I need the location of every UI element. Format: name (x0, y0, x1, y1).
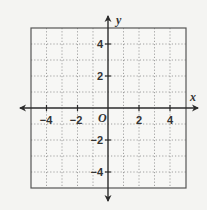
x-tick-label-2: 2 (136, 114, 142, 126)
x-axis-label: x (189, 90, 196, 104)
x-tick-label-neg4: −4 (40, 114, 53, 126)
x-tick-label-neg2: −2 (70, 114, 83, 126)
y-tick-label-4: 4 (97, 38, 104, 50)
coordinate-plane: y x O −4 −2 2 4 4 2 −2 −4 (0, 0, 207, 210)
y-tick-label-neg4: −4 (90, 166, 103, 178)
y-tick-label-2: 2 (97, 70, 103, 82)
y-tick-label-neg2: −2 (90, 134, 103, 146)
y-axis-label: y (114, 13, 122, 27)
x-tick-label-4: 4 (167, 114, 174, 126)
origin-label: O (98, 111, 107, 125)
